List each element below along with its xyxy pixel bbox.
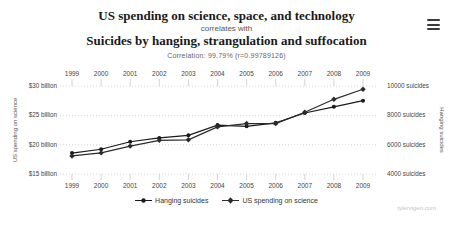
svg-text:2001: 2001 (123, 182, 138, 189)
svg-text:2005: 2005 (239, 182, 254, 189)
menu-bar (427, 19, 440, 21)
title-top: US spending on science, space, and techn… (0, 9, 453, 23)
spurious-correlation-chart-card: US spending on science, space, and techn… (0, 0, 453, 227)
svg-text:2002: 2002 (152, 70, 167, 77)
chart-header: US spending on science, space, and techn… (0, 9, 453, 59)
circle-marker-icon (135, 197, 152, 204)
svg-text:2005: 2005 (239, 70, 254, 77)
svg-text:6000 suicides: 6000 suicides (387, 141, 426, 148)
menu-bar (427, 24, 440, 26)
svg-text:8000 suicides: 8000 suicides (387, 111, 426, 118)
svg-text:2006: 2006 (268, 182, 283, 189)
title-bottom: Suicides by hanging, strangulation and s… (0, 34, 453, 48)
svg-text:2007: 2007 (298, 182, 313, 189)
svg-text:1999: 1999 (65, 182, 80, 189)
svg-text:2002: 2002 (152, 182, 167, 189)
watermark: tylervigen.com (397, 205, 436, 211)
svg-text:2007: 2007 (298, 70, 313, 77)
chart-legend: Hanging suicides US spending on science (0, 196, 453, 205)
correlation-line-chart: 1999199920002000200120012002200220032003… (0, 64, 453, 196)
correlation-stat: Correlation: 99.79% (r=0.99789126) (0, 52, 453, 59)
svg-text:2006: 2006 (268, 70, 283, 77)
legend-item-us-spending: US spending on science (222, 196, 318, 205)
svg-text:2000: 2000 (94, 182, 109, 189)
svg-text:2004: 2004 (210, 182, 225, 189)
svg-text:2003: 2003 (181, 70, 196, 77)
svg-text:1999: 1999 (65, 70, 80, 77)
svg-text:2001: 2001 (123, 70, 138, 77)
svg-text:Hanging suicides: Hanging suicides (439, 107, 445, 153)
svg-text:$30 billion: $30 billion (29, 82, 58, 89)
legend-label: US spending on science (242, 197, 318, 204)
correlates-with-text: correlates with (0, 24, 453, 33)
svg-text:$15 billion: $15 billion (29, 170, 58, 177)
svg-text:2000: 2000 (94, 70, 109, 77)
svg-text:$20 billion: $20 billion (29, 141, 58, 148)
diamond-marker-icon (222, 196, 239, 205)
svg-text:US spending on science: US spending on science (12, 97, 18, 162)
svg-text:10000 suicides: 10000 suicides (387, 82, 429, 89)
svg-text:2003: 2003 (181, 182, 196, 189)
svg-text:$25 billion: $25 billion (29, 111, 58, 118)
svg-text:2008: 2008 (327, 70, 342, 77)
menu-bar (427, 28, 440, 30)
svg-text:2009: 2009 (356, 182, 371, 189)
hamburger-menu-icon[interactable] (427, 19, 440, 30)
svg-text:2008: 2008 (327, 182, 342, 189)
legend-item-hanging-suicides: Hanging suicides (135, 197, 208, 204)
svg-text:2009: 2009 (356, 70, 371, 77)
svg-text:2004: 2004 (210, 70, 225, 77)
svg-text:4000 suicides: 4000 suicides (387, 170, 426, 177)
legend-label: Hanging suicides (155, 197, 208, 204)
